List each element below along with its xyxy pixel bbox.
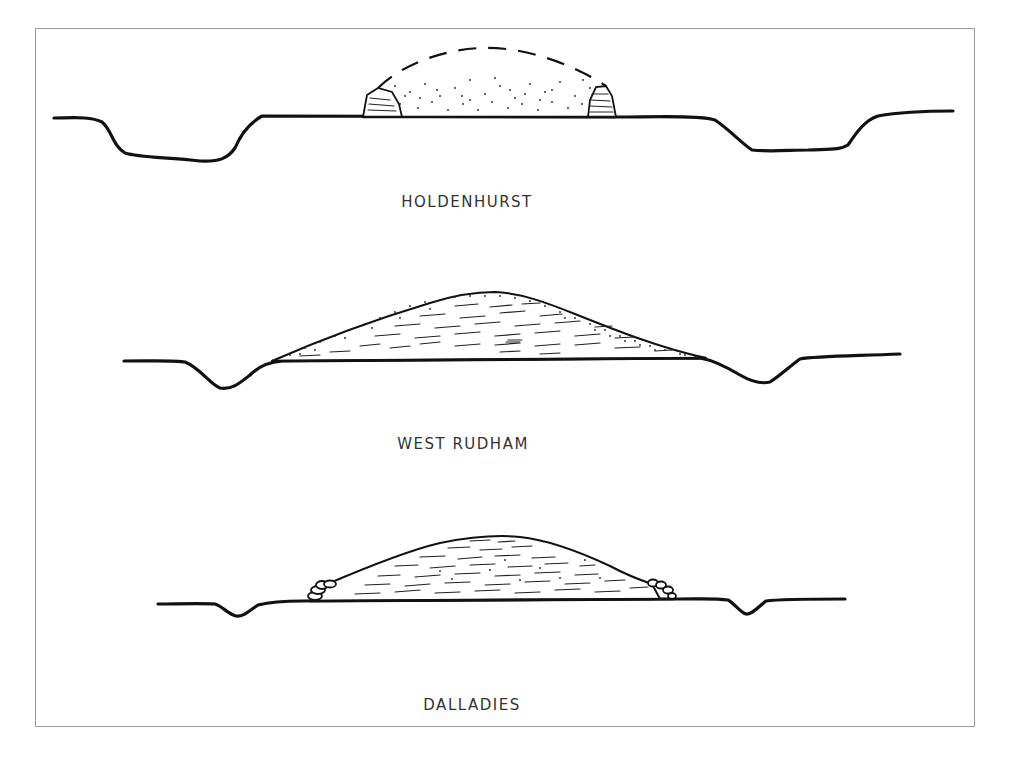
- section-west-rudham: [124, 292, 900, 388]
- west-rudham-mound: [272, 292, 706, 361]
- section-dalladies: [158, 536, 845, 616]
- cross-section-drawing: [0, 0, 1009, 760]
- section-holdenhurst: [54, 48, 953, 161]
- label-west-rudham: WEST RUDHAM: [397, 435, 529, 453]
- label-holdenhurst: HOLDENHURST: [401, 193, 533, 211]
- dalladies-ground-profile: [158, 599, 845, 616]
- label-dalladies: DALLADIES: [423, 696, 520, 714]
- holdenhurst-ground-profile: [54, 111, 953, 161]
